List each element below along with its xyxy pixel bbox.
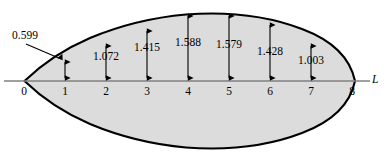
diagram-canvas bbox=[0, 0, 388, 155]
ordinate-value-label-2: 1.072 bbox=[93, 51, 119, 63]
axis-tick-label-0: 0 bbox=[21, 86, 27, 98]
ordinate-value-label-4: 1.588 bbox=[175, 37, 201, 49]
callout-leader-line bbox=[26, 44, 61, 59]
axis-tick-label-6: 6 bbox=[267, 86, 273, 98]
axis-tick-label-1: 1 bbox=[62, 86, 68, 98]
callout-value-label: 0.599 bbox=[12, 30, 38, 42]
axis-tick-label-4: 4 bbox=[185, 86, 191, 98]
axis-tick-label-8: 8 bbox=[349, 86, 355, 98]
ordinate-value-label-3: 1.415 bbox=[134, 42, 160, 54]
ordinate-value-label-7: 1.003 bbox=[298, 55, 324, 67]
ordinate-value-label-5: 1.579 bbox=[216, 39, 242, 51]
axis-tick-label-3: 3 bbox=[144, 86, 150, 98]
axis-name-label: L bbox=[372, 74, 378, 86]
axis-tick-label-2: 2 bbox=[103, 86, 109, 98]
axis-tick-label-5: 5 bbox=[226, 86, 232, 98]
ordinate-value-label-6: 1.428 bbox=[257, 46, 283, 58]
ordinate-diagram: 0.599 1.072 1.415 1.588 1.579 1.428 1.00… bbox=[0, 0, 388, 155]
axis-tick-label-7: 7 bbox=[308, 86, 314, 98]
